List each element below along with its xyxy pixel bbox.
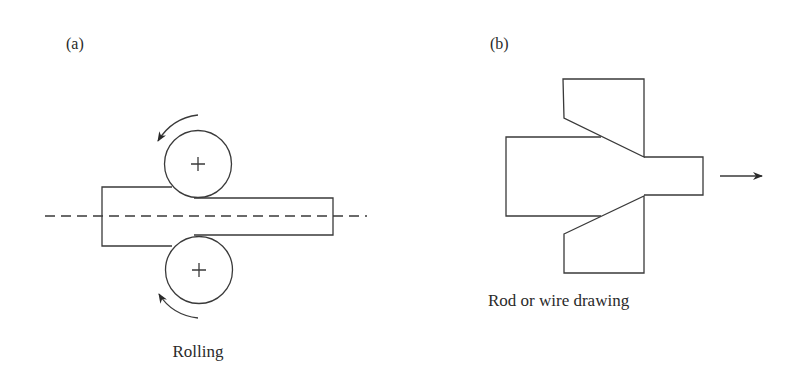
rolling-workpiece xyxy=(102,187,333,246)
bottom-roll-center-plus-icon xyxy=(192,263,206,277)
bottom-die xyxy=(564,196,644,273)
top-roll xyxy=(165,131,232,198)
panel-b-drawing: (b) Rod or wire drawing xyxy=(488,35,762,310)
top-die xyxy=(563,79,644,157)
bottom-roll-rotation-arrow-icon xyxy=(159,294,198,318)
drawing-workpiece xyxy=(506,137,703,216)
panel-a-rolling: (a) Rolling xyxy=(45,35,367,361)
top-roll-center-plus-icon xyxy=(191,157,205,171)
panel-b-caption: Rod or wire drawing xyxy=(488,291,630,310)
panel-b-label: (b) xyxy=(490,35,509,53)
panel-a-caption: Rolling xyxy=(172,342,224,361)
forming-processes-diagram: (a) Rolling (b) Rod or wire drawing xyxy=(0,0,797,385)
bottom-roll xyxy=(166,237,233,304)
panel-a-label: (a) xyxy=(66,35,84,53)
